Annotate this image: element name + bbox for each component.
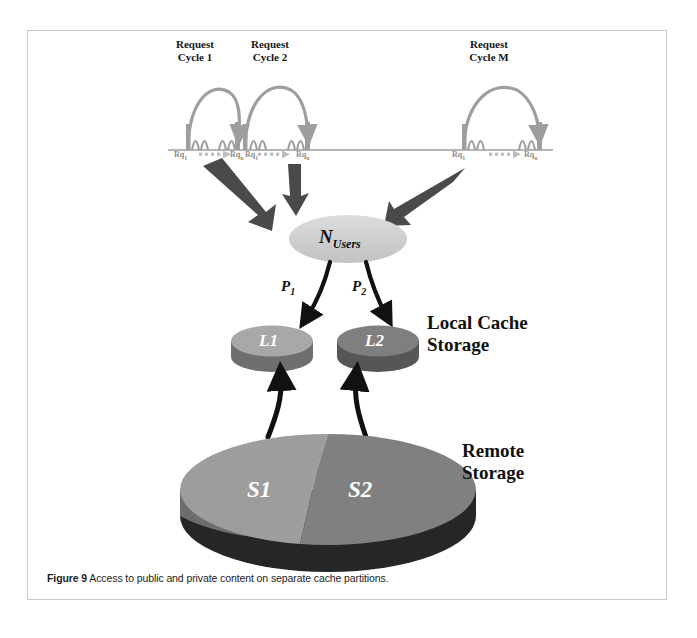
figure-caption-number: Figure 9 <box>47 572 87 584</box>
l1-label: L1 <box>259 331 278 351</box>
request-cycle-2-title: Request Cycle 2 <box>240 38 300 63</box>
local-cache-storage-title: Local Cache Storage <box>427 312 587 356</box>
diagram-canvas <box>0 0 697 638</box>
feed-arrow-2 <box>282 164 309 216</box>
s2-label: S2 <box>348 477 372 503</box>
cycle-2-end-label: Rqn <box>296 150 310 161</box>
cycle-1-dots <box>199 150 231 158</box>
p2-arrow <box>366 262 386 315</box>
cycle-1-end-label: Rqn <box>230 150 244 161</box>
request-cycle-m-group <box>462 87 542 158</box>
cycle-2-start-label: Rq1 <box>245 150 258 161</box>
request-cycle-m-title: Request Cycle M <box>458 38 520 63</box>
remote-storage-pie <box>180 434 476 572</box>
feed-arrow-3 <box>384 168 465 226</box>
cycle-m-dots <box>489 150 521 158</box>
figure-container: Request Cycle 1 Request Cycle 2 Request … <box>0 0 697 638</box>
feed-arrow-1 <box>203 158 276 231</box>
n-users-label: NUsers <box>319 226 361 252</box>
cycle-1-start-label: Rq1 <box>174 150 187 161</box>
figure-caption-text: Access to public and private content on … <box>89 572 388 584</box>
request-cycle-1-title: Request Cycle 1 <box>165 38 225 63</box>
request-cycle-2-group <box>243 87 310 158</box>
figure-caption: Figure 9 Access to public and private co… <box>47 572 647 584</box>
p1-label: P1 <box>281 278 295 297</box>
p1-arrow <box>307 262 330 317</box>
s2-to-l2-arrow <box>355 378 366 437</box>
probability-arrows-group <box>307 262 386 317</box>
s1-label: S1 <box>247 477 271 503</box>
l2-label: L2 <box>365 331 384 351</box>
cycle-m-end-label: Rqn <box>524 150 538 161</box>
remote-storage-title: Remote Storage <box>462 440 612 484</box>
cycle-2-dots <box>258 150 290 158</box>
request-cycle-1-group <box>186 89 240 158</box>
fetch-arrows-group <box>268 378 366 437</box>
s1-to-l1-arrow <box>268 378 281 437</box>
cycle-m-start-label: Rq1 <box>452 150 465 161</box>
p2-label: P2 <box>352 278 366 297</box>
